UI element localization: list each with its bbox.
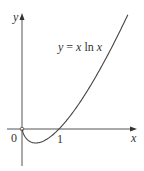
equation-x2: x <box>97 40 102 54</box>
curve-x-ln-x <box>22 15 128 143</box>
equation-eq: = <box>63 40 76 54</box>
chart-figure: y x 0 1 y = x ln x <box>0 0 144 171</box>
x-tick-1-label: 1 <box>57 133 63 145</box>
equation-label: y = x ln x <box>58 41 102 53</box>
origin-label: 0 <box>11 132 17 144</box>
y-axis-label: y <box>13 11 18 23</box>
x-axis-label: x <box>131 132 136 144</box>
equation-ln: ln <box>81 40 96 54</box>
y-axis-arrow-icon <box>20 13 25 20</box>
plot-area <box>0 0 144 171</box>
